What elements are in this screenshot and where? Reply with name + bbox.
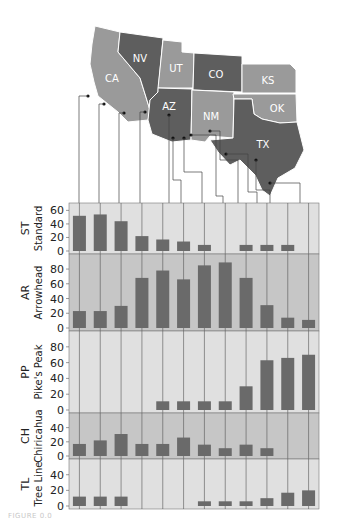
panel-code-label: TL — [19, 477, 32, 492]
tick-label: 0 — [57, 245, 64, 258]
tick-label: 20 — [50, 484, 64, 497]
tick-label: 80 — [50, 341, 64, 354]
bar — [115, 306, 128, 328]
panel-st: 0204060STStandard — [19, 203, 319, 258]
tick-label: 40 — [50, 422, 64, 435]
bar — [135, 444, 148, 456]
bar — [198, 445, 211, 456]
bar — [240, 278, 253, 328]
panel-code-label: AR — [19, 285, 32, 301]
bar — [73, 444, 86, 456]
bar — [302, 490, 315, 506]
bar — [73, 497, 86, 506]
panel-pp: 020406080PPPike's Peak — [19, 331, 319, 417]
bar — [281, 318, 294, 328]
bar — [177, 279, 190, 328]
panel-ch: 02040CHChiricahua — [19, 409, 319, 463]
bar — [94, 311, 107, 328]
panel-code-label: CH — [19, 428, 32, 444]
tick-label: 80 — [50, 263, 64, 276]
bar — [240, 445, 253, 456]
bar — [260, 498, 273, 506]
bar — [302, 320, 315, 328]
tick-label: 40 — [50, 372, 64, 385]
bar — [260, 305, 273, 328]
bar — [240, 501, 253, 506]
tick-label: 20 — [50, 231, 64, 244]
bar — [281, 493, 294, 506]
bar — [156, 271, 169, 328]
bar — [73, 216, 86, 251]
bar — [240, 245, 253, 251]
tick-label: 20 — [50, 307, 64, 320]
bar — [198, 245, 211, 251]
panel-tl: 02040TLTree Line — [19, 459, 319, 513]
bar — [260, 245, 273, 251]
panel-name-label: Tree Line — [33, 462, 44, 508]
bar — [198, 401, 211, 410]
bar — [135, 236, 148, 251]
tick-label: 40 — [50, 218, 64, 231]
tick-label: 60 — [50, 278, 64, 291]
bar — [281, 358, 294, 410]
bar — [302, 355, 315, 410]
bar — [115, 221, 128, 251]
bar — [94, 440, 107, 456]
bar — [177, 438, 190, 456]
panel-name-label: Chiricahua — [33, 409, 44, 462]
tick-label: 60 — [50, 357, 64, 370]
bar — [198, 265, 211, 328]
bar — [198, 501, 211, 506]
bar — [260, 360, 273, 410]
bar — [260, 448, 273, 456]
tick-label: 0 — [57, 322, 64, 335]
tick-label: 20 — [50, 388, 64, 401]
bar — [281, 245, 294, 251]
tick-label: 40 — [50, 293, 64, 306]
panel-name-label: Standard — [33, 206, 44, 252]
tick-label: 0 — [57, 404, 64, 417]
bar — [177, 242, 190, 251]
bar — [219, 401, 232, 410]
bar — [156, 239, 169, 251]
bar — [94, 497, 107, 506]
bar — [156, 401, 169, 410]
tick-label: 40 — [50, 469, 64, 482]
figure-caption: FIGURE 0.0 — [8, 512, 52, 520]
bar — [115, 434, 128, 456]
bar — [219, 448, 232, 456]
tick-label: 0 — [57, 450, 64, 463]
tick-label: 0 — [57, 500, 64, 513]
panel-name-label: Pike's Peak — [33, 344, 44, 399]
bar — [177, 401, 190, 410]
tick-label: 20 — [50, 436, 64, 449]
bar — [135, 278, 148, 328]
panel-name-label: Arrowhead — [33, 266, 44, 320]
bar-chart-panels: 0204060STStandard020406080ARArrowhead020… — [0, 0, 337, 525]
panel-code-label: ST — [19, 221, 32, 235]
panel-code-label: PP — [19, 365, 32, 379]
bar — [156, 444, 169, 456]
bar — [219, 501, 232, 506]
bar — [94, 214, 107, 251]
panel-ar: 020406080ARArrowhead — [19, 254, 319, 335]
bar — [219, 262, 232, 328]
bar — [240, 386, 253, 410]
tick-label: 60 — [50, 204, 64, 217]
bar — [115, 497, 128, 506]
bar — [73, 311, 86, 328]
